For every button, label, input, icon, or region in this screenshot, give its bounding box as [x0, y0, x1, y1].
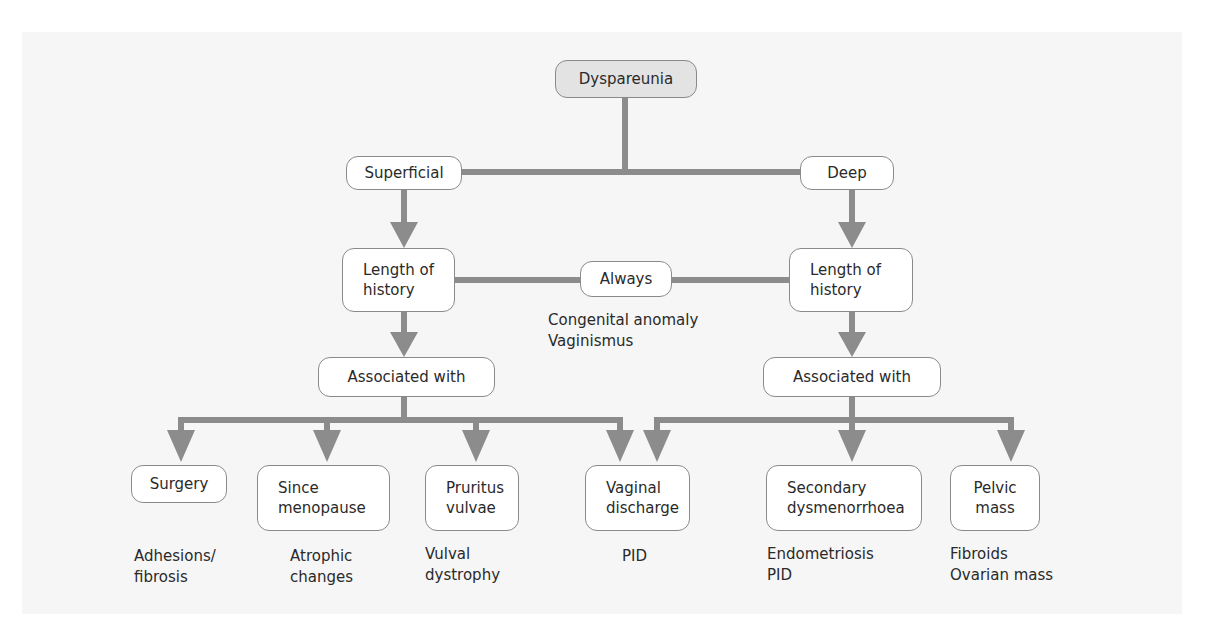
node-surgery: Surgery — [131, 465, 227, 503]
pruritus-vulvae-causes-text: Vulval dystrophy — [425, 544, 500, 586]
node-associated-with-superficial: Associated with — [318, 357, 495, 397]
node-superficial: Superficial — [346, 156, 462, 190]
node-pelvic-mass: Pelvic mass — [950, 465, 1040, 531]
root-node-dyspareunia: Dyspareunia — [555, 60, 697, 98]
node-pruritus-vulvae: Pruritus vulvae — [425, 465, 519, 531]
node-length-of-history-superficial: Length of history — [342, 248, 455, 312]
node-always: Always — [580, 261, 672, 297]
node-associated-with-deep: Associated with — [763, 357, 941, 397]
node-since-menopause: Since menopause — [257, 465, 390, 531]
since-menopause-causes-text: Atrophic changes — [290, 546, 353, 588]
node-deep: Deep — [800, 156, 894, 190]
secondary-dysmenorrhoea-causes-text: Endometriosis PID — [767, 544, 874, 586]
node-secondary-dysmenorrhoea: Secondary dysmenorrhoea — [766, 465, 922, 531]
always-causes-text: Congenital anomaly Vaginismus — [548, 310, 698, 352]
pelvic-mass-causes-text: Fibroids Ovarian mass — [950, 544, 1053, 586]
node-vaginal-discharge: Vaginal discharge — [585, 465, 690, 531]
vaginal-discharge-causes-text: PID — [622, 546, 647, 567]
node-length-of-history-deep: Length of history — [789, 248, 913, 312]
surgery-causes-text: Adhesions/ fibrosis — [134, 546, 216, 588]
